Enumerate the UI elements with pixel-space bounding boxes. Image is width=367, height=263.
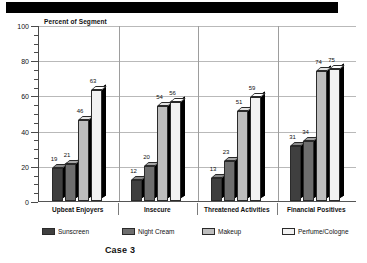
y-tick-30: [34, 149, 38, 150]
bar-value-label: 21: [64, 152, 71, 158]
y-tick-label-100: 100: [17, 23, 29, 30]
bar-front: [316, 71, 327, 201]
bar-side: [102, 85, 106, 198]
legend: SunscreenNight CreamMakeupPerfume/Cologn…: [42, 228, 352, 240]
bar: 54: [157, 106, 168, 201]
y-tick-75: [34, 70, 38, 71]
y-tick-60: [31, 96, 38, 97]
bar-value-label: 20: [143, 154, 150, 160]
bar: 12: [131, 180, 142, 201]
bar-group: 13235159: [198, 26, 278, 201]
bar: 63: [91, 90, 102, 201]
bar-value-label: 13: [210, 166, 217, 172]
legend-label: Sunscreen: [58, 228, 89, 235]
y-tick-40: [31, 132, 38, 133]
bar-front: [250, 97, 261, 201]
legend-swatch: [282, 228, 295, 235]
legend-item: Makeup: [202, 228, 241, 235]
bar-value-label: 19: [51, 156, 58, 162]
legend-item: Night Cream: [122, 228, 174, 235]
bar-value-label: 54: [156, 94, 163, 100]
chart-screenshot: Percent of Segment 192146631220545613235…: [0, 0, 367, 263]
x-axis-category-label: Threatened Activities: [204, 206, 270, 213]
x-axis-category-label: Upbeat Enjoyers: [52, 206, 103, 213]
y-tick-85: [34, 52, 38, 53]
bar-value-label: 75: [328, 57, 335, 63]
y-tick-label-20: 20: [21, 163, 29, 170]
legend-label: Night Cream: [138, 228, 174, 235]
bar-value-label: 59: [249, 85, 256, 91]
y-tick-35: [34, 140, 38, 141]
bar-front: [303, 141, 314, 201]
bar-side: [181, 97, 185, 198]
bar: 23: [224, 161, 235, 201]
y-tick-15: [34, 176, 38, 177]
bar: 46: [78, 120, 89, 201]
x-axis-labels: Upbeat EnjoyersInsecureThreatened Activi…: [38, 206, 356, 220]
legend-label: Makeup: [218, 228, 241, 235]
y-tick-label-0: 0: [25, 199, 29, 206]
bar-value-label: 46: [77, 108, 84, 114]
legend-item: Sunscreen: [42, 228, 89, 235]
bar-front: [144, 166, 155, 201]
bar: 13: [211, 178, 222, 201]
bar-value-label: 74: [315, 59, 322, 65]
y-tick-label-60: 60: [21, 93, 29, 100]
y-tick-20: [31, 167, 38, 168]
y-tick-90: [34, 44, 38, 45]
y-tick-80: [31, 61, 38, 62]
y-tick-25: [34, 158, 38, 159]
y-tick-65: [34, 88, 38, 89]
bar-value-label: 56: [169, 90, 176, 96]
top-black-banner: [6, 2, 338, 13]
y-tick-label-80: 80: [21, 58, 29, 65]
x-axis-separator: [277, 203, 278, 215]
bar-value-label: 34: [302, 129, 309, 135]
legend-item: Perfume/Cologne: [282, 228, 349, 235]
x-axis-category-label: Insecure: [144, 206, 171, 213]
bar: 31: [290, 146, 301, 201]
bar-front: [52, 168, 63, 201]
bar: 19: [52, 168, 63, 201]
bar-value-label: 51: [236, 99, 243, 105]
x-axis-category-label: Financial Positives: [287, 206, 346, 213]
bar: 51: [237, 111, 248, 201]
legend-swatch: [122, 228, 135, 235]
bar-front: [131, 180, 142, 201]
y-tick-label-40: 40: [21, 128, 29, 135]
bar-value-label: 31: [289, 134, 296, 140]
bar-group: 19214663: [39, 26, 119, 201]
y-axis-title: Percent of Segment: [44, 18, 107, 25]
bar-value-label: 12: [130, 168, 137, 174]
bar-front: [170, 102, 181, 201]
y-tick-95: [34, 35, 38, 36]
y-tick-0: [31, 202, 38, 203]
y-tick-5: [34, 193, 38, 194]
bar-group: 31347475: [278, 26, 358, 201]
y-tick-55: [34, 105, 38, 106]
bar-front: [211, 178, 222, 201]
bar-front: [329, 69, 340, 201]
bar-value-label: 63: [90, 78, 97, 84]
bar-front: [78, 120, 89, 201]
bar-value-label: 23: [223, 149, 230, 155]
bar-side: [261, 92, 265, 198]
y-tick-10: [34, 184, 38, 185]
bar: 21: [65, 164, 76, 201]
legend-swatch: [202, 228, 215, 235]
bar: 34: [303, 141, 314, 201]
bar: 75: [329, 69, 340, 201]
bar-front: [91, 90, 102, 201]
bar-group: 12205456: [119, 26, 199, 201]
y-tick-50: [34, 114, 38, 115]
y-tick-100: [31, 26, 38, 27]
figure-caption: Case 3: [0, 245, 240, 255]
bar-front: [224, 161, 235, 201]
bar: 20: [144, 166, 155, 201]
bar-side: [340, 64, 344, 198]
bar: 59: [250, 97, 261, 201]
x-axis-separator: [118, 203, 119, 215]
bar: 74: [316, 71, 327, 201]
legend-swatch: [42, 228, 55, 235]
bar-front: [290, 146, 301, 201]
